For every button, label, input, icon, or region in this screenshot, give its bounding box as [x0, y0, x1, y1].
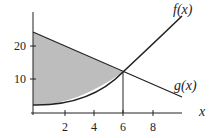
- x-tick-label: 6: [120, 120, 126, 134]
- shaded-region: [33, 32, 123, 105]
- x-tick-label: 4: [91, 120, 97, 134]
- y-tick-label: 10: [14, 72, 26, 86]
- y-tick-label: 20: [14, 39, 26, 53]
- x-axis-label: x: [198, 104, 206, 119]
- f-label: f(x): [173, 2, 193, 18]
- x-tick-label: 8: [150, 120, 156, 134]
- g-label: g(x): [174, 78, 197, 94]
- x-tick-label: 2: [62, 120, 68, 134]
- chart: 2 4 6 8 20 10 f(x) g(x) x: [0, 0, 215, 138]
